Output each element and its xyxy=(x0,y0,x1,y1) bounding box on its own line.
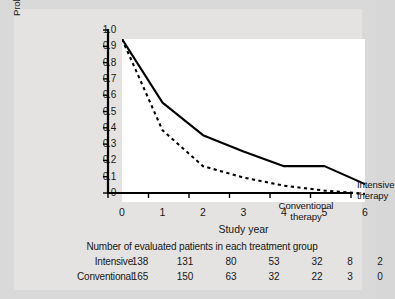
table-cell: 22 xyxy=(303,271,331,282)
y-tick-label: 0 xyxy=(90,187,116,198)
y-axis-tick-labels: 1.00.90.80.70.60.50.40.30.20.10 xyxy=(86,9,116,209)
table-cell: 8 xyxy=(336,256,364,267)
table-cell: 80 xyxy=(217,256,245,267)
patient-count-table: Intensive13813180533282Conventional16515… xyxy=(28,256,376,286)
x-tick-label: 2 xyxy=(195,206,211,218)
table-row: Conventional16515063322230 xyxy=(28,271,376,286)
table-row: Intensive13813180533282 xyxy=(28,256,376,271)
series-line-conventional xyxy=(122,39,365,194)
y-tick-label: 0.2 xyxy=(90,154,116,165)
x-tick-label: 5 xyxy=(317,206,333,218)
table-cell: 53 xyxy=(260,256,288,267)
y-tick-label: 0.6 xyxy=(90,89,116,100)
x-tick-label: 1 xyxy=(155,206,171,218)
table-cell: 138 xyxy=(126,256,154,267)
x-tick-label: 3 xyxy=(236,206,252,218)
plot-area: Intensive therapy Conventional therapy xyxy=(122,39,365,202)
table-cell: 63 xyxy=(217,271,245,282)
y-tick-label: 0.8 xyxy=(90,57,116,68)
figure-inner-area: Probability of maintaining C-peptide lev… xyxy=(14,9,362,290)
x-tick-label: 0 xyxy=(114,206,130,218)
table-cell: 32 xyxy=(303,256,331,267)
table-cell: 2 xyxy=(366,256,394,267)
x-tick-label: 4 xyxy=(276,206,292,218)
y-tick-label: 0.3 xyxy=(90,138,116,149)
annotation-intensive-therapy: Intensive therapy xyxy=(357,179,395,201)
table-row-label: Intensive xyxy=(28,256,133,267)
table-row-label: Conventional xyxy=(28,271,133,282)
y-tick-label: 0.5 xyxy=(90,106,116,117)
x-axis-label: Study year xyxy=(122,223,365,235)
x-axis-tick-labels: 0123456 xyxy=(122,206,365,222)
y-axis-label: Probability of maintaining C-peptide lev… xyxy=(11,0,41,29)
series-line-intensive xyxy=(122,39,365,184)
y-tick-label: 1.0 xyxy=(90,24,116,35)
table-cell: 131 xyxy=(171,256,199,267)
table-cell: 150 xyxy=(171,271,199,282)
y-axis-label-line2: level > 0.2 pmol/mL xyxy=(23,0,35,33)
table-cell: 0 xyxy=(366,271,394,282)
table-cell: 32 xyxy=(260,271,288,282)
y-tick-label: 0.1 xyxy=(90,171,116,182)
table-title: Number of evaluated patients in each tre… xyxy=(28,241,376,252)
table-cell: 165 xyxy=(126,271,154,282)
table-cell: 3 xyxy=(336,271,364,282)
y-tick-label: 0.4 xyxy=(90,122,116,133)
y-tick-label: 0.7 xyxy=(90,73,116,84)
y-axis-label-line1: Probability of maintaining C-peptide xyxy=(11,0,23,33)
plot-svg xyxy=(122,39,365,202)
y-tick-label: 0.9 xyxy=(90,40,116,51)
x-tick-label: 6 xyxy=(357,206,373,218)
